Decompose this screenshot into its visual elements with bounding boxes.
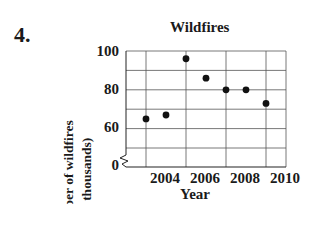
y-axis-break-icon xyxy=(120,155,128,167)
data-point xyxy=(183,55,190,62)
x-tick-2008: 2008 xyxy=(230,170,260,187)
data-point xyxy=(263,100,270,107)
x-tick-2010: 2010 xyxy=(270,170,300,187)
x-tick-2004: 2004 xyxy=(150,170,180,187)
data-point xyxy=(143,116,150,123)
data-point xyxy=(203,75,210,82)
data-point xyxy=(163,112,170,119)
x-tick-2006: 2006 xyxy=(190,170,220,187)
data-point xyxy=(243,86,250,93)
data-point xyxy=(223,86,230,93)
x-axis-label: Year xyxy=(180,186,210,203)
